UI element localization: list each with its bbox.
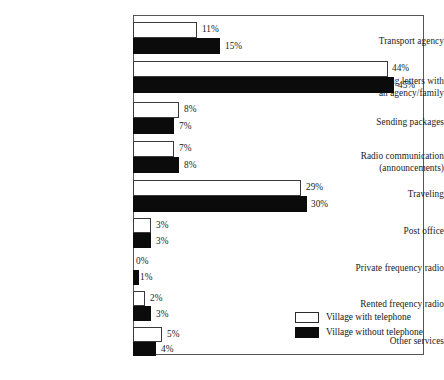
bar-without-telephone: [133, 342, 156, 356]
bar-value-label: 5%: [167, 329, 179, 340]
category-label-line: Sending packages: [316, 117, 444, 129]
category-label-line: Rented freqency radio: [316, 299, 444, 311]
category-label-line: Transport agency: [316, 36, 444, 48]
bar-value-label: 11%: [202, 24, 219, 35]
bar-value-label: 0%: [136, 256, 148, 267]
bar-without-telephone: [133, 38, 220, 54]
bar-without-telephone: [133, 270, 139, 285]
category-label: Transport agency: [316, 36, 444, 48]
category-label: Private frequency radio: [316, 263, 444, 275]
bar-without-telephone: [133, 77, 394, 93]
bar-value-label: 29%: [306, 182, 323, 193]
bar-value-label: 8%: [184, 160, 196, 171]
bar-value-label: 1%: [140, 272, 152, 283]
bar-without-telephone: [133, 306, 151, 321]
category-label-line: Private frequency radio: [316, 263, 444, 275]
bar-value-label: 2%: [150, 293, 162, 304]
category-label: Rented freqency radio: [316, 299, 444, 311]
bar-with-telephone: [133, 291, 145, 306]
legend-label: Village without telephone: [326, 326, 423, 339]
bar-value-label: 7%: [179, 121, 191, 132]
legend-label: Village with telephone: [326, 311, 411, 324]
bar-value-label: 4%: [161, 344, 173, 355]
category-label: Traveling: [316, 189, 444, 201]
bar-with-telephone: [133, 61, 388, 77]
bar-value-label: 3%: [156, 309, 168, 320]
bar-with-telephone: [133, 327, 162, 342]
bar-value-label: 8%: [184, 104, 196, 115]
category-label: Sending packages: [316, 117, 444, 129]
category-label-line: Post office: [316, 226, 444, 238]
legend-swatch-icon: [295, 327, 319, 338]
bar-value-label: 30%: [311, 199, 328, 210]
category-label: Radio communication (announcements): [316, 151, 444, 174]
bar-value-label: 3%: [156, 236, 168, 247]
legend-item-without-telephone: Village without telephone: [295, 326, 419, 340]
bar-value-label: 3%: [156, 220, 168, 231]
bar-value-label: 44%: [392, 63, 409, 74]
bar-value-label: 7%: [179, 143, 191, 154]
category-label: Post office: [316, 226, 444, 238]
bar-with-telephone: [133, 218, 151, 233]
bar-with-telephone: [133, 180, 301, 196]
bar-with-telephone: [133, 141, 174, 157]
bar-value-label: 45%: [398, 80, 415, 91]
bar-with-telephone: [133, 22, 197, 38]
chart-page: Transport agency Sending letters with an…: [0, 0, 444, 380]
bar-without-telephone: [133, 196, 307, 212]
legend-item-with-telephone: Village with telephone: [295, 311, 419, 325]
bar-without-telephone: [133, 157, 179, 173]
bar-without-telephone: [133, 118, 174, 134]
legend-swatch-icon: [295, 312, 319, 323]
chart-legend: Village with telephone Village without t…: [295, 311, 419, 341]
category-label-line: (announcements): [316, 163, 444, 175]
bar-without-telephone: [133, 233, 151, 248]
bar-value-label: 15%: [225, 41, 242, 52]
category-label-line: Traveling: [316, 189, 444, 201]
category-label-line: Radio communication: [316, 151, 444, 163]
bar-with-telephone: [133, 102, 179, 118]
